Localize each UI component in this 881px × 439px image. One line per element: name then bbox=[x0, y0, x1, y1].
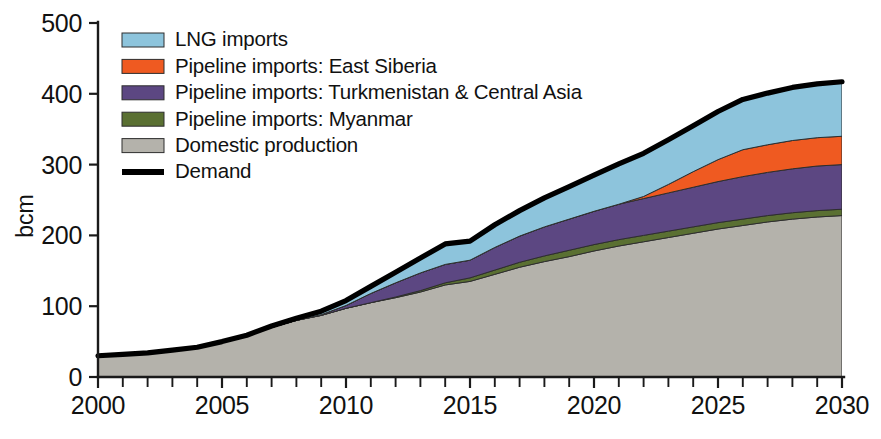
y-tick-label: 200 bbox=[41, 221, 82, 249]
legend-item-label: LNG imports bbox=[175, 27, 288, 50]
chart-legend: LNG importsPipeline imports: East Siberi… bbox=[122, 27, 583, 182]
y-axis-title: bcm bbox=[12, 194, 38, 237]
legend-color-swatch bbox=[122, 33, 164, 47]
x-tick-label: 2020 bbox=[567, 391, 621, 419]
legend-color-swatch bbox=[122, 112, 164, 126]
chart-container: 0100200300400500 20002005201020152020202… bbox=[0, 0, 881, 439]
x-axis-tick-labels: 2000200520102015202020252030 bbox=[71, 391, 869, 419]
legend-color-swatch bbox=[122, 139, 164, 153]
legend-item: Pipeline imports: East Siberia bbox=[122, 54, 438, 77]
legend-item: Domestic production bbox=[122, 133, 358, 156]
x-tick-label: 2000 bbox=[71, 391, 125, 419]
legend-item-label: Pipeline imports: Turkmenistan & Central… bbox=[175, 80, 583, 103]
x-axis-ticks bbox=[98, 377, 842, 388]
y-tick-label: 300 bbox=[41, 151, 82, 179]
legend-item: Demand bbox=[122, 159, 251, 182]
x-tick-label: 2010 bbox=[319, 391, 373, 419]
y-tick-label: 400 bbox=[41, 80, 82, 108]
legend-item: Pipeline imports: Turkmenistan & Central… bbox=[122, 80, 583, 103]
x-tick-label: 2030 bbox=[815, 391, 869, 419]
legend-item-label: Pipeline imports: East Siberia bbox=[175, 54, 438, 77]
stacked-area-chart: 0100200300400500 20002005201020152020202… bbox=[0, 0, 881, 439]
y-axis-ticks bbox=[89, 23, 98, 377]
legend-item: Pipeline imports: Myanmar bbox=[122, 107, 413, 130]
legend-item-label: Domestic production bbox=[175, 133, 358, 156]
legend-color-swatch bbox=[122, 59, 164, 73]
x-tick-label: 2015 bbox=[443, 391, 497, 419]
legend-item-label: Demand bbox=[175, 159, 251, 182]
legend-item-label: Pipeline imports: Myanmar bbox=[175, 107, 413, 130]
y-tick-label: 500 bbox=[41, 9, 82, 37]
x-tick-label: 2025 bbox=[691, 391, 745, 419]
y-tick-label: 100 bbox=[41, 292, 82, 320]
y-tick-label: 0 bbox=[68, 363, 82, 391]
y-axis-tick-labels: 0100200300400500 bbox=[41, 9, 82, 391]
legend-color-swatch bbox=[122, 86, 164, 100]
legend-item: LNG imports bbox=[122, 27, 288, 50]
x-tick-label: 2005 bbox=[195, 391, 249, 419]
